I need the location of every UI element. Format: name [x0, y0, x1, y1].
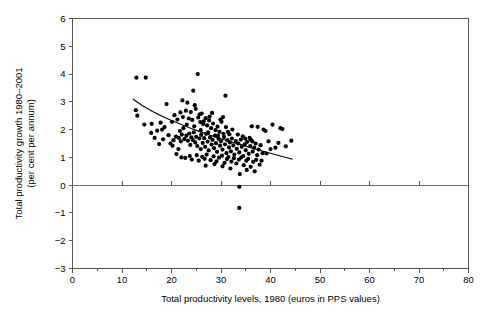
scatter-plot: 01020304050607080 −3−2−10123456 Total pr… [0, 0, 484, 314]
data-point [245, 168, 249, 172]
data-point [218, 144, 222, 148]
x-tick-label: 70 [414, 274, 425, 285]
data-point [239, 155, 243, 159]
data-point [207, 148, 211, 152]
data-point [230, 128, 234, 132]
data-point [226, 155, 230, 159]
data-point [266, 139, 270, 143]
data-point [199, 147, 203, 151]
data-point [207, 118, 211, 122]
data-point [190, 118, 194, 122]
data-point [202, 119, 206, 123]
data-point [178, 110, 182, 114]
data-point [196, 72, 200, 76]
data-point [244, 148, 248, 152]
data-point [235, 147, 239, 151]
data-point [280, 127, 284, 131]
data-point [155, 129, 159, 133]
data-point [201, 141, 205, 145]
data-point [273, 146, 277, 150]
data-point [166, 133, 170, 137]
data-point [204, 164, 208, 168]
data-point [157, 142, 161, 146]
data-point [289, 139, 293, 143]
data-point [191, 89, 195, 93]
data-point [197, 159, 201, 163]
data-point [227, 145, 231, 149]
data-point [209, 126, 213, 130]
data-point [184, 109, 188, 113]
x-tick-label: 60 [364, 274, 375, 285]
data-point [227, 132, 231, 136]
data-point [212, 146, 216, 150]
x-tick-label: 50 [315, 274, 326, 285]
data-point [253, 169, 257, 173]
data-point [211, 121, 215, 125]
data-point [229, 149, 233, 153]
data-point [220, 164, 224, 168]
data-point [234, 161, 238, 165]
x-tick-label: 40 [265, 274, 276, 285]
data-point [237, 150, 241, 154]
x-tick-label: 0 [70, 274, 75, 285]
data-point [224, 125, 228, 129]
data-point [185, 101, 189, 105]
data-point [228, 166, 232, 170]
data-point [175, 118, 179, 122]
y-tick-label: 1 [60, 152, 65, 163]
data-point [162, 125, 166, 129]
data-point [223, 142, 227, 146]
data-point [231, 143, 235, 147]
data-point [199, 133, 203, 137]
chart-figure: 01020304050607080 −3−2−10123456 Total pr… [0, 0, 484, 314]
data-point [195, 153, 199, 157]
data-point [261, 128, 265, 132]
data-point [247, 152, 251, 156]
data-point [179, 155, 183, 159]
data-point [219, 139, 223, 143]
data-point [220, 154, 224, 158]
data-point [237, 206, 241, 210]
x-tick-label: 30 [216, 274, 227, 285]
data-point [211, 154, 215, 158]
data-point [255, 153, 259, 157]
data-point [237, 185, 241, 189]
data-point [215, 150, 219, 154]
y-tick-label: 6 [60, 13, 65, 24]
data-point [205, 123, 209, 127]
data-point [230, 136, 234, 140]
data-point [135, 114, 139, 118]
data-point [229, 159, 233, 163]
data-point [210, 138, 214, 142]
data-point [220, 148, 224, 152]
data-point [142, 123, 146, 127]
data-point [236, 133, 240, 137]
data-point [258, 163, 262, 167]
x-tick-label: 20 [166, 274, 177, 285]
data-point [232, 156, 236, 160]
data-point [195, 144, 199, 148]
data-point [203, 157, 207, 161]
y-tick-label: −1 [55, 207, 66, 218]
data-point [159, 121, 163, 125]
data-point [170, 144, 174, 148]
data-point [197, 136, 201, 140]
y-tick-label: 5 [60, 41, 65, 52]
data-point [246, 157, 250, 161]
data-point [153, 136, 157, 140]
data-point [210, 111, 214, 115]
data-point [214, 141, 218, 145]
data-point [193, 103, 197, 107]
data-point [180, 98, 184, 102]
data-point [192, 124, 196, 128]
data-point [187, 131, 191, 135]
data-point [243, 136, 247, 140]
data-point [161, 137, 165, 141]
data-point [251, 149, 255, 153]
data-point [181, 126, 185, 130]
data-point [203, 145, 207, 149]
data-point [215, 124, 219, 128]
x-tick-label: 10 [117, 274, 128, 285]
data-point [178, 129, 182, 133]
data-point [179, 139, 183, 143]
